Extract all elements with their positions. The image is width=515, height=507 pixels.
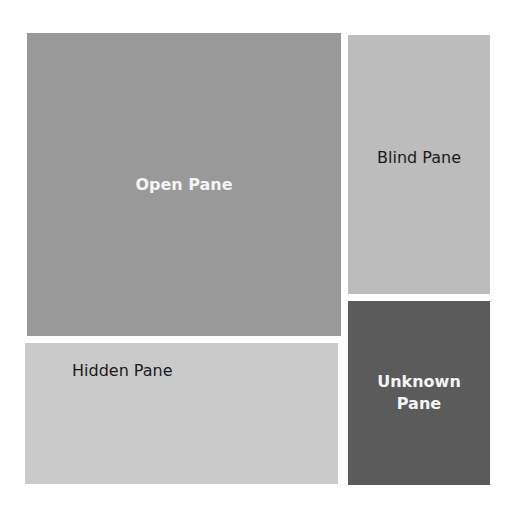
unknown-pane: Unknown Pane [348, 301, 490, 485]
unknown-pane-label-line2: Pane [377, 393, 461, 415]
blind-pane: Blind Pane [348, 35, 490, 294]
blind-pane-label: Blind Pane [377, 148, 461, 167]
open-pane-label: Open Pane [135, 175, 232, 194]
open-pane: Open Pane [27, 33, 341, 336]
unknown-pane-label: Unknown Pane [377, 371, 461, 415]
unknown-pane-label-line1: Unknown [377, 371, 461, 393]
hidden-pane-label: Hidden Pane [72, 361, 173, 380]
hidden-pane: Hidden Pane [25, 343, 338, 484]
